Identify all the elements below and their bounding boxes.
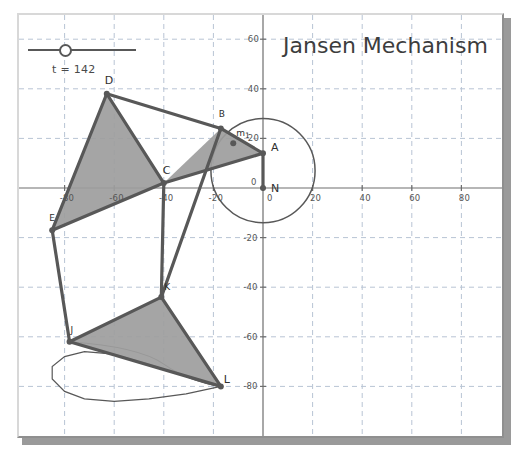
y-tick-label: -80	[243, 381, 257, 391]
link-B-K[interactable]	[161, 128, 221, 297]
t-slider[interactable]: t = 142	[28, 41, 148, 81]
point-label-D: D	[105, 74, 113, 87]
x-tick-label: 20	[310, 193, 321, 203]
joint-A[interactable]	[260, 150, 266, 156]
x-tick-label: -20	[209, 193, 223, 203]
mechanism-face	[52, 94, 164, 230]
y-tick-label: -60	[243, 332, 257, 342]
point-label-m1: m1	[236, 128, 250, 140]
y-tick-label: 40	[248, 84, 259, 94]
point-label-L: L	[224, 373, 230, 386]
joint-K[interactable]	[158, 294, 164, 300]
joint-m1[interactable]	[230, 140, 236, 146]
x-tick-label: 60	[409, 193, 420, 203]
slider-handle[interactable]	[59, 44, 72, 57]
joint-D[interactable]	[104, 91, 110, 97]
x-tick-label: 80	[459, 193, 470, 203]
joint-N[interactable]	[260, 185, 266, 191]
mechanism-face	[70, 297, 221, 386]
point-label-B: B	[219, 109, 225, 119]
joint-E[interactable]	[49, 227, 55, 233]
x-tick-label: -80	[60, 193, 74, 203]
slider-value-label: t = 142	[52, 63, 96, 76]
origin-tick-label: 0	[251, 177, 257, 187]
link-E-J[interactable]	[52, 230, 69, 342]
slider-track[interactable]	[28, 49, 136, 51]
point-label-N: N	[271, 182, 279, 195]
page-title: Jansen Mechanism	[283, 33, 488, 58]
y-tick-label: -20	[243, 233, 257, 243]
jansen-mechanism-app: t = 142 Jansen Mechanism -80-60-40-20020…	[0, 0, 522, 457]
joint-J[interactable]	[67, 339, 73, 345]
point-label-K: K	[164, 282, 170, 292]
point-label-C: C	[163, 164, 171, 177]
x-tick-label: -60	[109, 193, 123, 203]
x-tick-label: -40	[159, 193, 173, 203]
point-label-J: J	[71, 325, 74, 335]
y-tick-label: -40	[243, 282, 257, 292]
point-label-E: E	[49, 213, 55, 223]
x-tick-label: 40	[360, 193, 371, 203]
joint-C[interactable]	[161, 180, 167, 186]
point-label-A: A	[271, 141, 279, 154]
joint-B[interactable]	[218, 125, 224, 131]
y-tick-label: 60	[248, 34, 259, 44]
